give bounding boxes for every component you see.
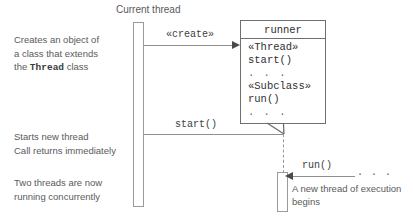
note-create-line2: a class that extends [14, 47, 99, 61]
object-box-runner-row-4: run() [248, 93, 325, 106]
note-create-line3-prefix: the [14, 61, 30, 72]
object-box-runner-row-5: . . . [248, 106, 325, 119]
note-new-thread-line1: A new thread of execution [292, 182, 401, 195]
object-box-runner-row-1: start() [248, 54, 325, 67]
arrowhead-create-icon [232, 41, 240, 49]
object-box-runner-body: «Thread» start() . . . «Subclass» run() … [241, 39, 325, 119]
object-box-runner-row-0: «Thread» [248, 41, 325, 54]
message-label-create: «create» [166, 29, 214, 40]
object-box-runner-name: runner [241, 21, 325, 39]
note-create-line3-suffix: class [64, 61, 88, 72]
note-start-line2: Call returns immediately [14, 144, 116, 158]
message-label-run-dots: . . . [357, 167, 392, 178]
note-create-line3: the Thread class [14, 60, 99, 75]
note-start: Starts new thread Call returns immediate… [14, 130, 116, 157]
note-create-line3-code: Thread [30, 62, 64, 73]
object-box-runner: runner «Thread» start() . . . «Subclass»… [240, 20, 326, 124]
object-box-runner-row-3: «Subclass» [248, 80, 325, 93]
object-box-runner-row-2: . . . [248, 67, 325, 80]
arrowhead-start-icon [265, 121, 287, 143]
message-line-start [144, 134, 283, 135]
note-concurrent-line2: running concurrently [14, 190, 102, 204]
note-create-line1: Creates an object of [14, 33, 99, 47]
note-start-line1: Starts new thread [14, 130, 116, 144]
message-line-create [144, 45, 238, 46]
note-concurrent: Two threads are now running concurrently [14, 176, 102, 203]
note-create: Creates an object of a class that extend… [14, 33, 99, 75]
arrowhead-run-icon [285, 172, 293, 180]
message-label-start: start() [175, 119, 217, 130]
sequence-diagram-canvas: Creates an object of a class that extend… [0, 0, 413, 219]
note-new-thread-line2: begins [292, 195, 401, 208]
activation-bar-current-thread [133, 22, 144, 207]
note-concurrent-line1: Two threads are now [14, 176, 102, 190]
note-new-thread: A new thread of execution begins [292, 182, 401, 208]
lifeline-label-current-thread: Current thread [116, 4, 180, 15]
message-label-run: run() [302, 160, 332, 171]
message-line-run [291, 176, 355, 177]
